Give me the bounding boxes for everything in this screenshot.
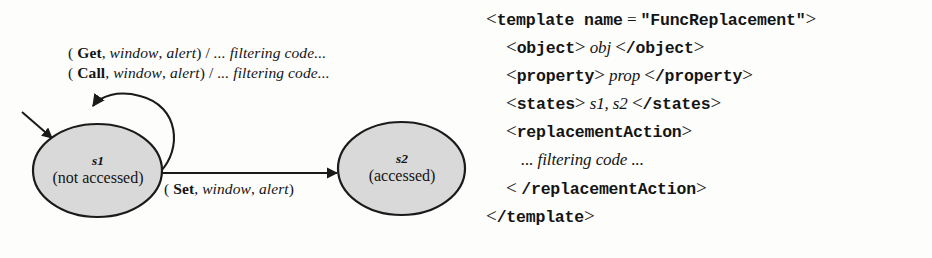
close-angle-bracket-icon: > (696, 177, 707, 198)
figure-canvas: s1 (not accessed) s2 (accessed) ( Get, w… (0, 0, 932, 258)
transition-call-event: Call (77, 64, 105, 81)
transition-call-open-paren: ( (68, 64, 77, 81)
tag-name-states-close: /states (643, 95, 711, 114)
tag-name-property: property (517, 67, 595, 86)
state-label-s1: s1 (not accessed) (33, 153, 163, 188)
transition-call-arg2: alert (170, 64, 200, 81)
tag-name-template: template name (497, 11, 623, 30)
open-angle-bracket-icon: < (615, 36, 626, 57)
state-machine-svg (0, 0, 470, 258)
tag-name-states: states (517, 95, 575, 114)
transition-get-arg1: window (110, 44, 159, 61)
tag-name-object: object (517, 39, 575, 58)
close-angle-bracket-icon: > (710, 92, 721, 113)
attribute-value-funcreplacement: "FuncReplacement" (641, 11, 806, 30)
tag-name-object-close: /object (626, 39, 694, 58)
tag-name-property-close: /property (655, 67, 742, 86)
code-line-filtering-code: ... filtering code ... (521, 149, 644, 170)
transition-call-comma1: , (105, 64, 113, 81)
close-angle-bracket-icon: > (742, 64, 753, 85)
xml-template-code: <template name = "FuncReplacement"> <obj… (486, 6, 926, 252)
code-line-states: <states> s1, s2 </states> (506, 92, 721, 114)
transition-get-arg2: alert (166, 44, 196, 61)
code-line-template-open: <template name = "FuncReplacement"> (486, 8, 816, 30)
close-angle-bracket-icon: > (575, 92, 586, 113)
states-value-text: s1, s2 (590, 94, 628, 113)
transition-label-set: ( Set, window, alert) (164, 180, 294, 198)
transition-get-comma1: , (102, 44, 110, 61)
state-label-s2: s2 (accessed) (338, 151, 466, 186)
transition-get-open-paren: ( (68, 44, 77, 61)
code-line-property: <property> prop </property> (506, 64, 753, 86)
code-line-template-close: </template> (486, 205, 595, 227)
object-value-text: obj (590, 38, 611, 57)
tag-name-replacementaction: replacementAction (517, 123, 682, 142)
open-angle-bracket-icon: < (486, 8, 497, 29)
open-angle-bracket-icon: < (506, 36, 517, 57)
state-machine-diagram: s1 (not accessed) s2 (accessed) ( Get, w… (0, 0, 470, 258)
property-value-text: prop (609, 66, 640, 85)
state-description-s1: (not accessed) (33, 169, 163, 188)
close-angle-bracket-icon: > (584, 205, 595, 226)
transition-call-action: ... filtering code... (217, 64, 329, 81)
transition-set-comma1: , (194, 180, 202, 197)
transition-call-arg1: window (113, 64, 162, 81)
code-line-object: <object> obj </object> (506, 36, 704, 58)
transition-set-open-paren: ( (164, 180, 173, 197)
code-line-replacementaction-open: <replacementAction> (506, 120, 692, 142)
transition-set-event: Set (173, 180, 194, 197)
initial-state-arrow (22, 112, 52, 138)
open-angle-bracket-icon: < (506, 64, 517, 85)
close-angle-bracket-icon: > (575, 36, 586, 57)
code-line-replacementaction-close: < /replacementAction> (506, 177, 707, 199)
transition-get-action: ... filtering code... (214, 44, 326, 61)
transition-set-comma2: , (251, 180, 259, 197)
state-name-s1: s1 (33, 153, 163, 169)
transition-call-close-paren: ) / (200, 64, 218, 81)
open-angle-bracket-icon: < (506, 177, 521, 198)
open-angle-bracket-icon: < (632, 92, 643, 113)
close-angle-bracket-icon: > (594, 64, 605, 85)
transition-set-arg2: alert (259, 180, 289, 197)
transition-set-arg1: window (202, 180, 251, 197)
state-description-s2: (accessed) (338, 167, 466, 186)
filtering-code-text: ... filtering code ... (521, 150, 644, 169)
equals-sign: = (623, 10, 641, 29)
close-angle-bracket-icon: > (694, 36, 705, 57)
open-angle-bracket-icon: < (506, 120, 517, 141)
transition-label-call: ( Call, window, alert) / ... filtering c… (68, 64, 330, 82)
transition-get-close-paren: ) / (196, 44, 214, 61)
transition-get-event: Get (77, 44, 101, 61)
tag-name-template-close: /template (497, 208, 584, 227)
open-angle-bracket-icon: < (486, 205, 497, 226)
transition-set-close-paren: ) (289, 180, 294, 197)
state-name-s2: s2 (338, 151, 466, 167)
close-angle-bracket-icon: > (805, 8, 816, 29)
open-angle-bracket-icon: < (644, 64, 655, 85)
transition-call-comma2: , (162, 64, 170, 81)
tag-name-replacementaction-close: /replacementAction (521, 180, 696, 199)
open-angle-bracket-icon: < (506, 92, 517, 113)
close-angle-bracket-icon: > (682, 120, 693, 141)
transition-label-get: ( Get, window, alert) / ... filtering co… (68, 44, 326, 62)
